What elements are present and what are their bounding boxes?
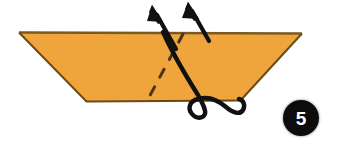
step-number-label: 5 <box>283 100 319 136</box>
step-number-badge: 5 <box>283 100 319 136</box>
paper-shading-overlay <box>19 32 302 102</box>
origami-illustration <box>0 0 348 165</box>
paper-top-edge <box>19 33 302 34</box>
origami-diagram: 5 <box>0 0 348 165</box>
